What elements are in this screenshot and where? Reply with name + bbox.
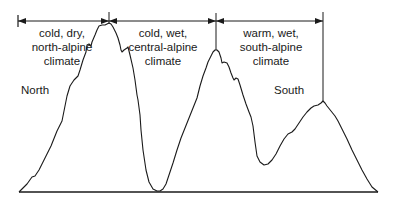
diagram-svg: cold, dry, north-alpine climate cold, we… [0, 0, 395, 205]
north-label: North [21, 84, 49, 96]
south-zone-line-1: warm, wet, [242, 27, 299, 39]
central-zone-line-2: central-alpine [128, 41, 197, 53]
north-zone-line-1: cold, dry, [39, 27, 85, 39]
south-zone-line-2: south-alpine [240, 41, 303, 53]
central-zone-line-3: climate [145, 55, 181, 67]
north-zone-line-2: north-alpine [32, 41, 93, 53]
alpine-climate-diagram: cold, dry, north-alpine climate cold, we… [0, 0, 395, 205]
south-zone-line-3: climate [253, 55, 289, 67]
south-label: South [274, 84, 304, 96]
north-zone-line-3: climate [44, 55, 80, 67]
central-zone-line-1: cold, wet, [139, 27, 188, 39]
south-zone-label: warm, wet, south-alpine climate [240, 27, 303, 67]
central-zone-label: cold, wet, central-alpine climate [128, 27, 197, 67]
